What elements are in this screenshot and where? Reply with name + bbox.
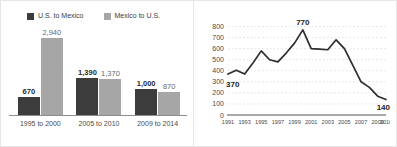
x-tick-label: 2005 (338, 119, 350, 125)
bar-chart-axis-line (9, 115, 187, 116)
y-axis-tick-labels: 0100200300400500600700800 (212, 23, 224, 118)
bar-2005-mexico-to-us: 1,370 (99, 25, 121, 115)
line-chart-panel: 0100200300400500600700800 19911993199519… (193, 0, 397, 147)
line-series-path (228, 30, 386, 100)
bar-group-2005-to-2010: 1,390 1,370 (76, 25, 121, 115)
y-tick-label: 100 (212, 100, 224, 107)
bar-value-label: 2,940 (42, 28, 61, 37)
y-tick-label: 600 (212, 45, 224, 52)
bar-value-label: 870 (163, 82, 176, 91)
bar-value-label: 1,000 (137, 79, 156, 88)
bar-groups: 670 2,940 1,390 1,370 (11, 25, 187, 115)
bar-group-1995-to-2000: 670 2,940 (18, 25, 63, 115)
y-tick-label: 700 (212, 34, 224, 41)
bar-2005-us-to-mexico: 1,390 (76, 25, 98, 115)
line-annotations: 370770140 (226, 18, 390, 112)
bar-category-label: 1995 to 2000 (20, 120, 61, 127)
y-tick-label: 500 (212, 56, 224, 63)
y-tick-label: 200 (212, 89, 224, 96)
bar-category-label: 2009 to 2014 (137, 120, 178, 127)
x-axis-tick-labels: 1991199319951997199920012003200520072009… (222, 119, 390, 125)
bar-category-label: 2005 to 2010 (79, 120, 120, 127)
x-tick-label: 1995 (255, 119, 267, 125)
bar-value-label: 1,370 (101, 69, 120, 78)
x-tick-label: 1997 (272, 119, 284, 125)
bar-value-label: 1,390 (78, 68, 97, 77)
legend-swatch-icon-dark (27, 13, 34, 20)
data-point-label: 140 (377, 103, 390, 112)
x-tick-label: 2001 (305, 119, 317, 125)
legend-swatch-icon-light (104, 13, 111, 20)
y-tick-label: 300 (212, 78, 224, 85)
line-chart-svg: 0100200300400500600700800 19911993199519… (202, 11, 390, 139)
bar-2009-mexico-to-us: 870 (158, 25, 180, 115)
bar-1995-us-to-mexico: 670 (18, 25, 40, 115)
x-tick-label: 2007 (355, 119, 367, 125)
x-tick-label: 1999 (288, 119, 300, 125)
bar-plot-area: 670 2,940 1,390 1,370 (11, 25, 187, 115)
bar-chart-panel: U.S. to Mexico Mexico to U.S. 670 2,940 (0, 0, 193, 147)
legend-label-us-to-mexico: U.S. to Mexico (38, 12, 84, 20)
bar-1995-mexico-to-us: 2,940 (41, 25, 63, 115)
bar-rect-light (41, 38, 63, 115)
bar-value-label: 670 (23, 87, 36, 96)
legend-label-mexico-to-us: Mexico to U.S. (115, 12, 161, 20)
bar-chart-legend: U.S. to Mexico Mexico to U.S. (27, 12, 160, 20)
bar-2009-us-to-mexico: 1,000 (135, 25, 157, 115)
x-tick-label: 1993 (238, 119, 250, 125)
bar-group-2009-to-2014: 1,000 870 (135, 25, 180, 115)
bar-rect-light (99, 79, 121, 115)
legend-item-us-to-mexico: U.S. to Mexico (27, 12, 84, 20)
y-tick-label: 400 (212, 67, 224, 74)
bar-rect-dark (135, 89, 157, 115)
line-plot-area: 0100200300400500600700800 19911993199519… (202, 11, 390, 139)
bar-rect-light (158, 92, 180, 115)
x-tick-label: 2003 (322, 119, 334, 125)
x-tick-label: 1991 (222, 119, 234, 125)
bar-category-labels: 1995 to 2000 2005 to 2010 2009 to 2014 (11, 120, 187, 127)
legend-item-mexico-to-us: Mexico to U.S. (104, 12, 161, 20)
bar-rect-dark (18, 97, 40, 115)
bar-rect-dark (76, 78, 98, 115)
data-point-label: 770 (296, 18, 310, 27)
x-tick-label: 2010 (380, 119, 390, 125)
chart-pair-container: U.S. to Mexico Mexico to U.S. 670 2,940 (0, 0, 397, 147)
data-point-label: 370 (226, 80, 240, 89)
y-tick-label: 800 (212, 23, 224, 30)
y-tick-label: 0 (220, 112, 224, 119)
